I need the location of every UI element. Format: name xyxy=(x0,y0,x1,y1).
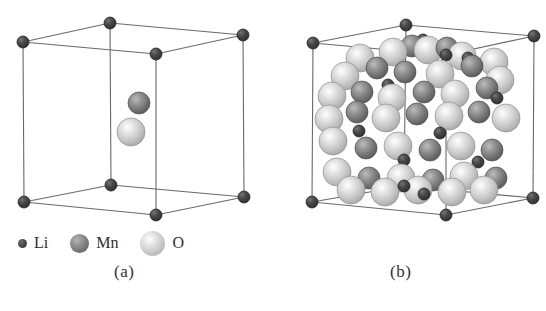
atom-li xyxy=(418,188,430,200)
atom-li xyxy=(440,209,452,221)
atom-o xyxy=(435,102,463,130)
mn-sphere-icon xyxy=(70,234,89,253)
atom-li xyxy=(104,17,116,29)
atom-mn xyxy=(394,61,416,83)
atom-mn xyxy=(128,92,150,114)
atom-o xyxy=(438,178,466,206)
unit-cell-diagrams xyxy=(0,0,546,311)
atom-o xyxy=(371,178,399,206)
atom-li xyxy=(105,179,117,191)
unit-cell-b-atoms xyxy=(306,19,540,221)
legend-label-mn: Mn xyxy=(96,234,118,252)
atom-o xyxy=(447,132,475,160)
legend-item-mn: Mn xyxy=(70,228,140,258)
atom-li xyxy=(353,125,365,137)
unit-cell-a-atoms xyxy=(17,17,250,221)
crystal-structure-figure: Li Mn O (a) (b) xyxy=(0,0,546,311)
atom-mn xyxy=(419,139,441,161)
atom-mn xyxy=(406,103,428,125)
atom-mn xyxy=(346,101,368,123)
o-sphere-icon xyxy=(140,231,165,256)
atom-li xyxy=(307,37,319,49)
panel-caption-a: (a) xyxy=(114,262,134,282)
atom-mn xyxy=(481,139,503,161)
atom-li xyxy=(434,127,446,139)
atom-li xyxy=(306,196,318,208)
atom-li xyxy=(18,196,30,208)
atom-mn xyxy=(355,137,377,159)
atom-li xyxy=(237,29,249,41)
panel-caption-b: (b) xyxy=(390,262,411,282)
atom-li xyxy=(491,92,503,104)
atom-li xyxy=(400,19,412,31)
atom-li xyxy=(238,191,250,203)
atom-mn xyxy=(413,81,435,103)
atom-o xyxy=(117,118,145,146)
atom-li xyxy=(528,30,540,42)
atom-li xyxy=(150,48,162,60)
atom-mn xyxy=(366,57,388,79)
atom-mn xyxy=(468,101,490,123)
atom-o xyxy=(372,104,400,132)
legend-label-o: O xyxy=(172,234,184,252)
legend-item-li: Li xyxy=(18,228,70,258)
legend: Li Mn O xyxy=(18,228,206,258)
atom-o xyxy=(337,176,365,204)
atom-li xyxy=(150,209,162,221)
atom-li xyxy=(527,192,539,204)
legend-item-o: O xyxy=(140,228,206,258)
atom-o xyxy=(492,104,520,132)
li-sphere-icon xyxy=(18,239,27,248)
legend-label-li: Li xyxy=(34,234,48,252)
atom-li xyxy=(17,36,29,48)
atom-o xyxy=(470,176,498,204)
atom-mn xyxy=(461,55,483,77)
atom-li xyxy=(398,180,410,192)
atom-li xyxy=(440,49,452,61)
atom-o xyxy=(319,127,347,155)
atom-mn xyxy=(351,81,373,103)
